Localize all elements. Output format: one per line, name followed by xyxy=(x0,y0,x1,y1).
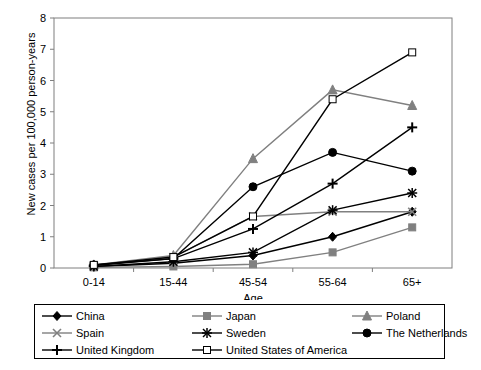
legend-item[interactable]: The Netherlands xyxy=(351,324,451,341)
legend-label: United States of America xyxy=(223,344,347,356)
y-tick-label: 5 xyxy=(40,106,46,118)
legend-label: Poland xyxy=(383,310,420,322)
legend-item[interactable]: Spain xyxy=(41,324,191,341)
series-line xyxy=(94,127,412,265)
legend-item[interactable]: China xyxy=(41,307,191,324)
legend-marker-icon xyxy=(191,310,223,322)
x-tick-label: 0-14 xyxy=(83,276,105,288)
legend-key-diamond-filled xyxy=(41,310,73,322)
marker-square-open xyxy=(204,346,211,353)
line-chart-svg: 0123456780-1415-4445-5455-6465+Age xyxy=(0,0,481,300)
legend-item[interactable]: Japan xyxy=(191,307,351,324)
legend-marker-icon xyxy=(351,310,383,322)
legend-marker-icon xyxy=(191,327,223,339)
legend-marker-icon xyxy=(41,327,73,339)
marker-diamond xyxy=(53,311,61,320)
legend-item[interactable]: United States of America xyxy=(191,341,351,358)
legend-label: Japan xyxy=(223,310,256,322)
legend-key-triangle-filled xyxy=(351,310,383,322)
legend-label: Spain xyxy=(73,327,104,339)
x-tick-label: 55-64 xyxy=(319,276,347,288)
legend-marker-icon xyxy=(191,344,223,356)
x-tick-label: 45-54 xyxy=(239,276,267,288)
legend-label: Sweden xyxy=(223,327,266,339)
marker-circle xyxy=(249,183,257,191)
marker-square xyxy=(409,224,416,231)
y-tick-label: 6 xyxy=(40,75,46,87)
marker-square xyxy=(250,261,257,268)
x-tick-label: 15-44 xyxy=(159,276,187,288)
legend-key-x-cross xyxy=(41,327,73,339)
y-tick-label: 1 xyxy=(40,231,46,243)
marker-circle xyxy=(408,167,416,175)
marker-square xyxy=(204,312,211,319)
marker-square xyxy=(329,249,336,256)
marker-circle xyxy=(329,148,337,156)
legend-grid: ChinaJapanPolandSpainSwedenThe Netherlan… xyxy=(35,305,444,358)
marker-square-open xyxy=(409,49,416,56)
marker-triangle xyxy=(328,85,337,94)
legend-item[interactable]: United Kingdom xyxy=(41,341,191,358)
y-axis-title: New cases per 100,000 person-years xyxy=(25,9,37,239)
legend-marker-icon xyxy=(41,310,73,322)
y-tick-label: 7 xyxy=(40,43,46,55)
y-tick-label: 4 xyxy=(40,137,46,149)
legend-item[interactable]: Poland xyxy=(351,307,451,324)
legend-key-asterisk xyxy=(191,327,223,339)
marker-square-open xyxy=(170,254,177,261)
legend-key-square-filled xyxy=(191,310,223,322)
legend-label: China xyxy=(73,310,105,322)
legend-label: The Netherlands xyxy=(383,327,467,339)
y-tick-label: 0 xyxy=(40,262,46,274)
figure-root: 0123456780-1415-4445-5455-6465+Age New c… xyxy=(0,0,481,370)
x-tick-label: 65+ xyxy=(403,276,422,288)
chart-plot-area: 0123456780-1415-4445-5455-6465+Age New c… xyxy=(0,0,481,300)
marker-diamond xyxy=(329,232,337,241)
y-tick-label: 3 xyxy=(40,168,46,180)
y-tick-label: 8 xyxy=(40,12,46,24)
legend-key-plus xyxy=(41,344,73,356)
series-line xyxy=(94,90,412,265)
marker-triangle xyxy=(249,154,258,163)
x-axis-title: Age xyxy=(243,292,263,300)
marker-square-open xyxy=(90,261,97,268)
marker-square-open xyxy=(250,213,257,220)
legend-key-square-open xyxy=(191,344,223,356)
chart-legend: ChinaJapanPolandSpainSwedenThe Netherlan… xyxy=(34,304,445,359)
marker-circle xyxy=(363,329,371,337)
legend-key-circle-filled xyxy=(351,327,383,339)
legend-marker-icon xyxy=(41,344,73,356)
marker-square-open xyxy=(329,96,336,103)
legend-item[interactable]: Sweden xyxy=(191,324,351,341)
y-tick-label: 2 xyxy=(40,200,46,212)
legend-label: United Kingdom xyxy=(73,344,154,356)
legend-marker-icon xyxy=(351,327,383,339)
